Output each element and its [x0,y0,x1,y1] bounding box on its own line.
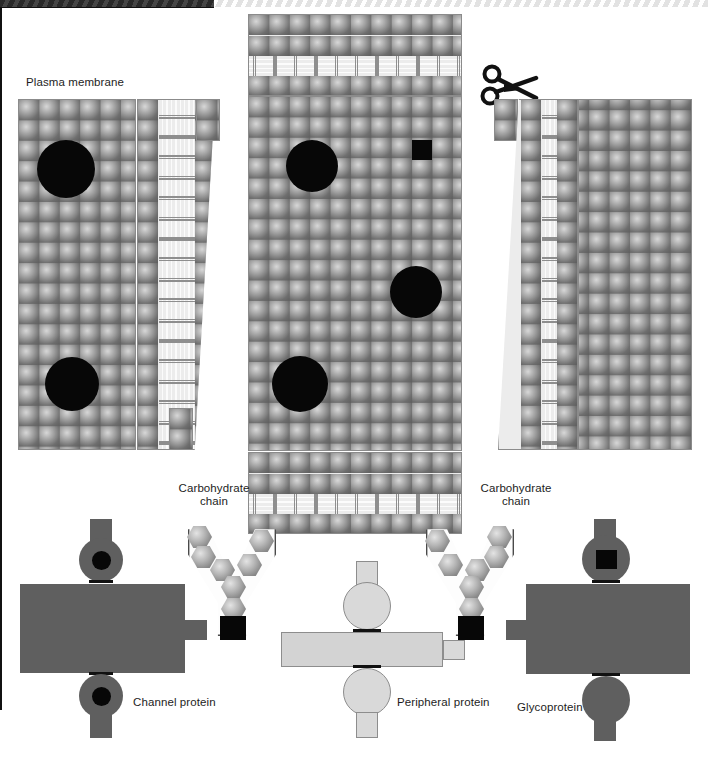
left-protein-hole-2 [45,357,99,411]
center-protein-hole-1 [286,140,338,192]
right-hinge-cut-line [0,359,2,710]
glycoprotein-top-seam [592,580,620,583]
center-top-bilayer-band [248,14,462,96]
right-bilayer-hinge-strip[interactable] [498,99,578,450]
membrane-model-figure: Plasma membrane Ch [0,0,708,761]
carbohydrate-chain-right[interactable] [424,524,516,640]
peripheral-protein-bottom-tab [356,712,378,738]
clipped-header-strip [0,0,708,7]
center-bottom-bilayer-band [248,452,462,534]
carbohydrate-chain-left[interactable] [186,524,278,640]
channel-protein-body[interactable] [20,584,185,673]
glycoprotein-body[interactable] [526,584,690,674]
center-protein-hole-2 [390,266,442,318]
channel-protein-label: Channel protein [133,696,216,709]
glycoprotein-bottom-circle[interactable] [582,676,630,724]
channel-protein-bottom-pore [92,687,111,706]
left-bilayer-hinge-strip[interactable] [137,99,215,450]
glycoprotein-bottom-tab [594,719,616,741]
right-membrane-sheet[interactable] [578,99,692,450]
glycoprotein-label: Glycoprotein [517,701,583,714]
peripheral-protein-side-tab [443,640,465,660]
left-hinge-cut-line [0,8,2,359]
center-protein-hole-square [412,140,432,160]
left-tab-top[interactable] [196,99,220,141]
peripheral-protein-bottom-circle[interactable] [343,668,391,716]
right-tab-top[interactable] [494,99,518,141]
left-tab-bottom[interactable] [169,408,193,450]
plasma-membrane-label: Plasma membrane [26,76,124,89]
left-protein-hole-1 [37,140,95,198]
channel-protein-top-pore [92,551,111,570]
peripheral-protein-label: Peripheral protein [397,696,490,709]
peripheral-protein-body[interactable] [281,632,443,667]
carb-left-anchor-square [220,616,246,640]
carbohydrate-chain-right-label: Carbohydrate chain [462,482,570,508]
center-protein-hole-3 [272,356,328,412]
carb-right-anchor-square [458,616,484,640]
channel-protein-bottom-tab [90,712,112,738]
glycoprotein-top-marker [596,550,617,569]
peripheral-protein-top-circle[interactable] [343,582,391,630]
carbohydrate-chain-left-label: Carbohydrate chain [160,482,268,508]
channel-protein-top-seam [89,580,113,583]
